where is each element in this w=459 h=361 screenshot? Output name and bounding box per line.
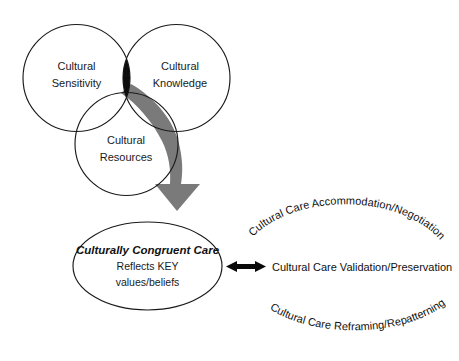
venn-label-knowledge-2: Knowledge: [153, 77, 207, 89]
venn-label-knowledge: Cultural: [161, 60, 199, 72]
venn-label-resources-2: Resources: [100, 151, 153, 163]
venn-label-sensitivity: Cultural: [58, 60, 96, 72]
bidirectional-arrow-icon: [226, 261, 266, 272]
core-subtitle-line-1: Reflects KEY: [117, 260, 179, 272]
mode-label-accommodation: Cultural Care Accommodation/Negotiation: [246, 194, 448, 241]
mode-label-validation: Cultural Care Validation/Preservation: [272, 261, 452, 273]
diagram-canvas: Cultural Sensitivity Cultural Knowledge …: [0, 0, 459, 361]
venn-label-resources: Cultural: [107, 134, 145, 146]
venn-label-sensitivity-2: Sensitivity: [52, 77, 102, 89]
mode-label-reframing: Cultural Care Reframing/Repatterning: [268, 296, 446, 332]
culturally-congruent-care-diagram: Cultural Sensitivity Cultural Knowledge …: [0, 0, 459, 361]
core-title: Culturally Congruent Care: [76, 244, 220, 256]
core-subtitle-line-2: values/beliefs: [116, 276, 180, 288]
